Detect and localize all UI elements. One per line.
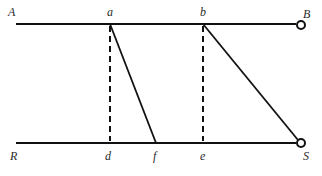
line-bS xyxy=(203,24,298,140)
label-a: a xyxy=(107,5,113,19)
geometry-diagram: A a b B R d f e S xyxy=(0,0,322,176)
label-b: b xyxy=(200,5,206,19)
label-A: A xyxy=(7,5,16,19)
label-R: R xyxy=(9,149,18,163)
label-S: S xyxy=(303,149,309,163)
endpoint-B-circle xyxy=(297,21,305,29)
label-e: e xyxy=(200,149,206,163)
label-d: d xyxy=(105,149,112,163)
label-f: f xyxy=(153,149,158,163)
line-af xyxy=(110,24,156,143)
endpoint-S-circle xyxy=(297,139,305,147)
label-B: B xyxy=(303,7,311,21)
